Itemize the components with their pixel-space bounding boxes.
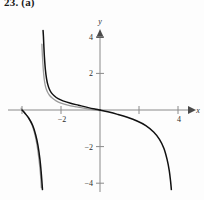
x-axis-label: x — [195, 106, 200, 115]
figure-container: 23. (a) −24−4−224 x y — [0, 0, 204, 200]
y-axis-label: y — [97, 17, 102, 26]
y-tick-label: −2 — [84, 143, 93, 152]
x-tick-label: −2 — [58, 115, 67, 124]
x-tick-label: 4 — [177, 115, 181, 124]
lower-left-branch — [22, 110, 42, 190]
x-axis-arrow-icon — [188, 106, 196, 114]
y-tick-label: 2 — [89, 69, 93, 78]
graph-plot: −24−4−224 x y — [0, 0, 204, 200]
right-branch — [100, 110, 171, 190]
y-tick-label: 4 — [89, 33, 93, 42]
exercise-label: 23. (a) — [4, 0, 35, 8]
y-tick-label: −4 — [84, 179, 93, 188]
